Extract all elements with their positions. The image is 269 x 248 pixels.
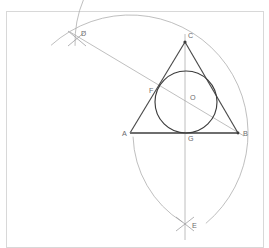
point-label-C: C — [188, 31, 193, 40]
point-label-F: F — [149, 86, 154, 95]
point-label-O: O — [190, 93, 196, 102]
page-frame — [7, 12, 264, 248]
geometry-figure: ABCDEFOG — [0, 0, 269, 248]
point-label-D: D — [81, 29, 86, 38]
point-label-E: E — [192, 221, 197, 230]
point-label-A: A — [122, 129, 127, 138]
point-label-G: G — [188, 134, 194, 143]
vertex-dot-C — [183, 40, 186, 43]
point-label-B: B — [243, 129, 248, 138]
construction-canvas: ABCDEFOG — [0, 0, 269, 248]
vertex-dot-B — [237, 132, 240, 135]
